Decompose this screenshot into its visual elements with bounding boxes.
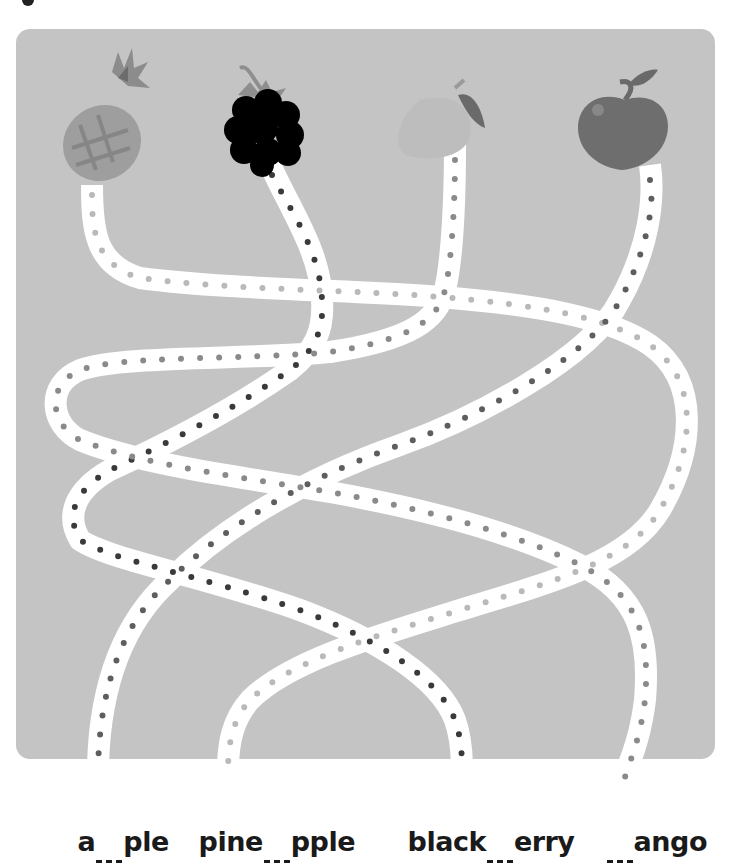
pineapple-icon [48,48,156,196]
word-blackberry-prefix: black [408,826,486,857]
word-apple-prefix: a [78,826,96,857]
word-mango-blank[interactable] [607,859,633,863]
word-mango: ango [570,795,707,867]
word-apple-blank[interactable] [96,859,122,863]
word-pineapple: pinepple [163,795,355,867]
word-pineapple-prefix: pine [199,826,263,857]
word-pineapple-blank[interactable] [264,859,290,863]
word-blackberry-suffix: erry [514,826,575,857]
word-apple-suffix: ple [123,826,168,857]
word-pineapple-suffix: pple [291,826,355,857]
word-apple: aple [42,795,169,867]
word-mango-suffix: ango [634,826,707,857]
word-list: aple pinepple blackerry ango [0,795,736,838]
blackberry-icon [224,67,304,177]
word-blackberry: blackerry [372,795,574,867]
mango-icon [398,80,485,158]
word-blackberry-blank[interactable] [487,859,513,863]
apple-icon [578,70,668,170]
